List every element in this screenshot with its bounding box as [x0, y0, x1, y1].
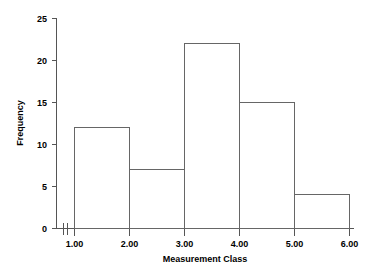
y-axis-ticks [52, 19, 57, 229]
y-tick-label-20: 20 [37, 56, 47, 66]
y-tick-label-0: 0 [42, 224, 47, 234]
x-tick-label-6: 6.00 [341, 239, 359, 249]
y-tick-label-25: 25 [37, 14, 47, 24]
histogram-bar-2 [130, 170, 185, 229]
y-axis-title: Frequency [15, 100, 25, 146]
y-tick-label-10: 10 [37, 140, 47, 150]
histogram-chart: 0 5 10 15 20 25 1.00 2.00 3.00 4.00 5.00… [0, 0, 377, 271]
x-axis-ticks [75, 229, 350, 236]
x-tick-label-5: 5.00 [286, 239, 304, 249]
y-tick-label-15: 15 [37, 98, 47, 108]
histogram-bar-3 [185, 44, 240, 229]
y-tick-label-5: 5 [42, 182, 47, 192]
chart-canvas: 0 5 10 15 20 25 1.00 2.00 3.00 4.00 5.00… [0, 0, 377, 271]
histogram-bar-5 [295, 195, 350, 229]
x-axis-title: Measurement Class [163, 254, 248, 264]
x-tick-label-4: 4.00 [231, 239, 249, 249]
x-tick-label-2: 2.00 [121, 239, 139, 249]
histogram-bar-4 [240, 103, 295, 229]
x-tick-label-3: 3.00 [176, 239, 194, 249]
x-tick-label-1: 1.00 [66, 239, 84, 249]
histogram-bar-1 [75, 128, 130, 229]
